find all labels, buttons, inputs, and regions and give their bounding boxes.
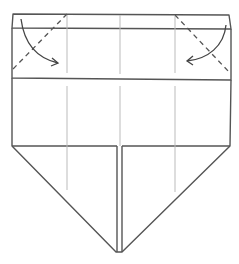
origami-diagram xyxy=(0,0,239,264)
curved-arrow-left-icon xyxy=(187,25,226,65)
top-band xyxy=(12,14,231,29)
valley-fold-right xyxy=(175,15,230,73)
valley-fold-left xyxy=(12,14,67,70)
